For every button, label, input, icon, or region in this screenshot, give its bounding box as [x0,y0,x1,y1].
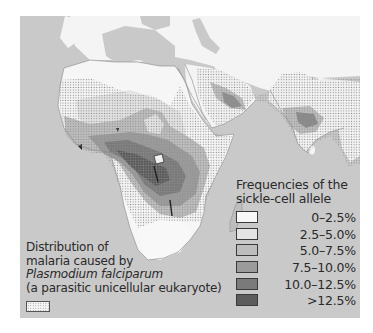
legend-label: 2.5–5.0% [266,227,356,242]
legend-title-line1: Frequencies of the [236,178,356,192]
legend-title-line2: sickle-cell allele [236,192,356,206]
malaria-stipple-swatch [26,301,50,312]
legend-label: 0–2.5% [266,210,356,225]
malaria-species-name: Plasmodium falciparum [26,268,222,282]
legend-swatch [236,244,258,256]
legend-item: 0–2.5% [216,209,356,226]
legend-item: 7.5–10.0% [216,259,356,276]
legend-item: 10.0–12.5% [216,276,356,293]
legend-swatch [236,261,258,273]
malaria-text-line2: malaria caused by [26,255,222,269]
legend-label: 5.0–7.5% [266,243,356,258]
legend-swatch [236,211,258,223]
legend-swatch [236,278,258,290]
malaria-legend: Distribution of malaria caused by Plasmo… [26,241,222,295]
legend-swatch [236,294,258,306]
legend-item: 2.5–5.0% [216,226,356,243]
legend-item: >12.5% [216,292,356,309]
malaria-text-line4: (a parasitic unicellular eukaryote) [26,282,222,296]
malaria-text-line1: Distribution of [26,241,222,255]
sickle-cell-legend: Frequencies of the sickle-cell allele 0–… [216,178,356,309]
legend-swatch [236,228,258,240]
legend-label: 10.0–12.5% [266,277,356,292]
lake-victoria [154,154,164,164]
legend-item: 5.0–7.5% [216,242,356,259]
legend-label: >12.5% [266,293,356,308]
legend-label: 7.5–10.0% [266,260,356,275]
